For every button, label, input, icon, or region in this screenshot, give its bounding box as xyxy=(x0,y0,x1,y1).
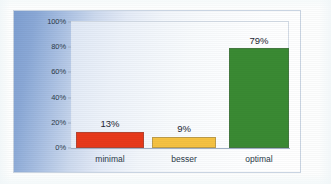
y-axis-tick-label-0: 0% xyxy=(55,144,71,152)
plot-area: 0% 20% 40% 60% 80% 100% 13% minimal 9% b… xyxy=(71,21,289,148)
bar-besser-value-label: 9% xyxy=(177,124,191,134)
bar-minimal-rect xyxy=(76,132,144,148)
bar-optimal-rect xyxy=(229,48,289,148)
chart-frame: 0% 20% 40% 60% 80% 100% 13% minimal 9% b… xyxy=(13,10,301,173)
bar-minimal[interactable]: 13% minimal xyxy=(76,132,144,148)
bar-besser[interactable]: 9% besser xyxy=(152,137,216,148)
bar-besser-rect xyxy=(152,137,216,148)
x-axis-category-label-besser: besser xyxy=(171,155,197,164)
bar-minimal-value-label: 13% xyxy=(100,119,119,129)
y-axis-tick-label-40: 40% xyxy=(51,94,71,102)
y-axis-tick-label-100: 100% xyxy=(47,18,71,26)
y-axis-tick-label-80: 80% xyxy=(51,43,71,51)
bar-optimal[interactable]: 79% optimal xyxy=(229,48,289,148)
bar-optimal-value-label: 79% xyxy=(249,36,268,46)
y-axis-tick-label-20: 20% xyxy=(51,119,71,127)
x-axis-category-label-optimal: optimal xyxy=(245,155,272,164)
x-axis-line xyxy=(71,148,290,149)
y-axis-tick-label-60: 60% xyxy=(51,69,71,77)
x-axis-category-label-minimal: minimal xyxy=(95,155,124,164)
scanned-page: 0% 20% 40% 60% 80% 100% 13% minimal 9% b… xyxy=(0,0,331,184)
